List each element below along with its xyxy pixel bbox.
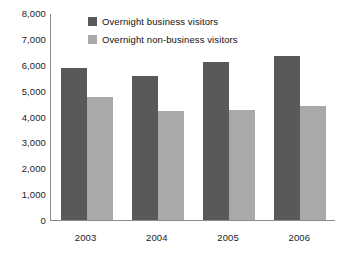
bar-chart: 01,0002,0003,0004,0005,0006,0007,0008,00… [0, 0, 345, 260]
chart-legend: Overnight business visitors Overnight no… [88, 13, 278, 49]
bar-2006-nonbusiness[interactable] [300, 106, 326, 220]
bar-group [274, 14, 326, 220]
y-tick-label: 1,000 [2, 190, 46, 200]
y-axis: 01,0002,0003,0004,0005,0006,0007,0008,00… [0, 0, 46, 260]
bar-2005-business[interactable] [203, 62, 229, 220]
bar-2004-nonbusiness[interactable] [158, 111, 184, 220]
y-tick-label: 4,000 [2, 113, 46, 123]
bar-2004-business[interactable] [132, 76, 158, 220]
legend-item-nonbusiness[interactable]: Overnight non-business visitors [88, 31, 278, 47]
legend-label-business: Overnight business visitors [102, 16, 218, 27]
legend-label-nonbusiness: Overnight non-business visitors [102, 34, 238, 45]
x-tick-label: 2005 [193, 232, 264, 243]
bar-2006-business[interactable] [274, 56, 300, 220]
bar-2003-business[interactable] [61, 68, 87, 220]
x-tick-label: 2003 [50, 232, 121, 243]
y-tick-label: 3,000 [2, 138, 46, 148]
x-tick-label: 2006 [264, 232, 335, 243]
y-tick-label: 8,000 [2, 9, 46, 19]
y-tick-label: 7,000 [2, 35, 46, 45]
x-tick-label: 2004 [121, 232, 192, 243]
y-tick-label: 6,000 [2, 61, 46, 71]
y-tick-label: 2,000 [2, 164, 46, 174]
legend-swatch-nonbusiness-icon [88, 35, 97, 44]
x-axis: 2003200420052006 [50, 232, 335, 252]
legend-swatch-business-icon [88, 17, 97, 26]
y-tick-label: 0 [2, 216, 46, 226]
y-tick-label: 5,000 [2, 87, 46, 97]
bar-2003-nonbusiness[interactable] [87, 97, 113, 220]
legend-item-business[interactable]: Overnight business visitors [88, 13, 278, 29]
bar-2005-nonbusiness[interactable] [229, 110, 255, 220]
